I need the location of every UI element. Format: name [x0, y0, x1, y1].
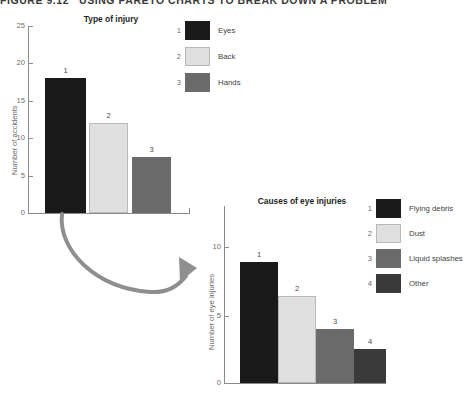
- chart1-tick-10: [29, 138, 33, 139]
- figure-number: FIGURE 9.12: [0, 0, 69, 6]
- legend1-label-eyes: Eyes: [218, 26, 235, 35]
- figure-title: FIGURE 9.12USING PARETO CHARTS TO BREAK …: [0, 0, 465, 6]
- legend2-swatch-other: [376, 274, 401, 293]
- chart1-tick-0: [29, 213, 33, 214]
- legend2-num-1: 1: [363, 204, 372, 213]
- legend2-swatch-dust: [376, 224, 401, 243]
- chart2-bar-label-3: 3: [316, 317, 354, 326]
- legend2-label-liquid-splashes: Liquid splashes: [409, 254, 463, 263]
- chart1-x-axis-end-tick: [189, 208, 190, 214]
- chart1-x-axis: [28, 213, 190, 214]
- chart1-tick-label-20: 20: [4, 58, 25, 67]
- legend1-label-hands: Hands: [218, 78, 241, 87]
- chart2-tick-0: [225, 383, 229, 384]
- chart1-title: Type of injury: [46, 14, 176, 24]
- chart2-tick-10: [225, 247, 229, 248]
- legend2-num-2: 2: [363, 229, 372, 238]
- chart2-bar-liquid-splashes[interactable]: [316, 329, 354, 383]
- chart2-bar-label-1: 1: [240, 250, 278, 259]
- chart2-tick-label-5: 5: [200, 311, 221, 320]
- legend1-swatch-hands: [185, 73, 210, 92]
- chart1-bar-label-1: 1: [45, 66, 86, 75]
- chart2-y-axis: [224, 206, 225, 384]
- chart2-bar-label-4: 4: [354, 337, 386, 346]
- legend2-num-4: 4: [363, 279, 372, 288]
- chart1-bar-label-3: 3: [132, 145, 171, 154]
- chart1-tick-5: [29, 176, 33, 177]
- legend2-label-flying-debris: Flying debris: [409, 204, 453, 213]
- legend2-label-other: Other: [409, 279, 429, 288]
- chart2-legend: 1 Flying debris 2 Dust 3 Liquid splashes…: [363, 198, 465, 308]
- chart1-tick-25: [29, 26, 33, 27]
- chart1-tick-label-0: 0: [4, 208, 25, 217]
- chart2-tick-label-0: 0: [200, 378, 221, 387]
- legend1-num-3: 3: [172, 78, 181, 87]
- legend2-swatch-flying-debris: [376, 199, 401, 218]
- legend1-label-back: Back: [218, 52, 235, 61]
- chart1-bar-back[interactable]: [89, 123, 128, 213]
- chart2-bar-dust[interactable]: [278, 296, 316, 383]
- chart2-tick-5: [225, 316, 229, 317]
- legend1-num-1: 1: [172, 26, 181, 35]
- chart1-tick-15: [29, 101, 33, 102]
- chart2-tick-label-10: 10: [200, 242, 221, 251]
- chart1-tick-label-10: 10: [4, 133, 25, 142]
- legend2-label-dust: Dust: [409, 229, 425, 238]
- chart2-x-axis: [224, 383, 386, 384]
- chart1-tick-20: [29, 63, 33, 64]
- legend1-num-2: 2: [172, 52, 181, 61]
- chart1-tick-label-15: 15: [4, 96, 25, 105]
- chart1-tick-label-5: 5: [4, 171, 25, 180]
- chart2-bar-label-2: 2: [278, 284, 316, 293]
- chart1-y-axis: [28, 26, 29, 214]
- figure-title-text: USING PARETO CHARTS TO BREAK DOWN A PROB…: [79, 0, 387, 6]
- legend1-swatch-back: [185, 47, 210, 66]
- chart1-legend: 1 Eyes 2 Back 3 Hands: [172, 20, 282, 110]
- chart1-bar-label-2: 2: [89, 111, 128, 120]
- legend2-swatch-liquid-splashes: [376, 249, 401, 268]
- chart2-bar-other[interactable]: [354, 349, 386, 383]
- legend1-swatch-eyes: [185, 21, 210, 40]
- chart2-title: Causes of eye injuries: [228, 196, 376, 206]
- chart2-bar-flying-debris[interactable]: [240, 262, 278, 383]
- chart1-bar-eyes[interactable]: [45, 78, 86, 213]
- chart1-bar-hands[interactable]: [132, 157, 171, 213]
- chart1-tick-label-25: 25: [4, 21, 25, 30]
- legend2-num-3: 3: [363, 254, 372, 263]
